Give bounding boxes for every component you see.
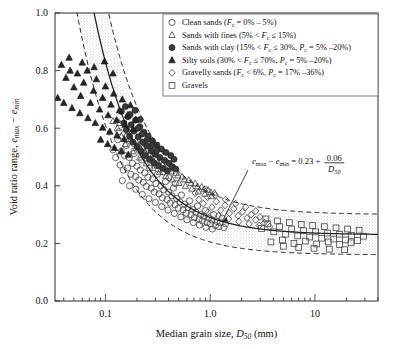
svg-text:0.6: 0.6: [36, 123, 49, 134]
svg-text:Silty soils (30% < Fc ≤ 70%, P: Silty soils (30% < Fc ≤ 70%, Pc = 5% –20…: [182, 56, 332, 66]
void-ratio-range-scatter-chart: 0.00.20.40.60.81.00.11.010Median grain s…: [0, 0, 397, 349]
svg-text:0.2: 0.2: [36, 238, 49, 249]
legend-item-1: Sands with fines (5% < Fc ≤ 15%): [169, 31, 296, 41]
svg-text:Sands with fines (5% < Fc ≤ 15: Sands with fines (5% < Fc ≤ 15%): [182, 31, 296, 41]
equation-text: emax − emin = 0.23 +: [252, 156, 320, 167]
svg-text:Gravels: Gravels: [182, 81, 208, 90]
svg-text:1.0: 1.0: [36, 7, 49, 18]
x-axis-title: Median grain size, D50 (mm): [156, 328, 278, 341]
svg-text:0.8: 0.8: [36, 65, 49, 76]
svg-text:1.0: 1.0: [204, 308, 217, 319]
svg-text:D50: D50: [327, 164, 341, 175]
figure-container: 0.00.20.40.60.81.00.11.010Median grain s…: [0, 0, 397, 349]
legend-item-4: Gravelly sands (Fc < 6%, Pc = 17% –36%): [169, 68, 324, 78]
legend-item-0: Clean sands (Fc = 0% – 5%): [169, 18, 277, 28]
legend-item-5: Gravels: [169, 81, 208, 90]
svg-text:10: 10: [310, 308, 320, 319]
svg-text:Gravelly sands (Fc < 6%, Pc =: Gravelly sands (Fc < 6%, Pc = 17% –36%): [182, 68, 324, 78]
svg-text:0.06: 0.06: [327, 153, 343, 163]
chart-legend: Clean sands (Fc = 0% – 5%)Sands with fin…: [163, 14, 378, 96]
svg-text:Clean sands (Fc = 0% – 5%): Clean sands (Fc = 0% – 5%): [182, 18, 277, 28]
svg-text:0.1: 0.1: [99, 308, 112, 319]
svg-text:Sands with clay (15% < Fc ≤ 30: Sands with clay (15% < Fc ≤ 30%, Pc = 5%…: [182, 43, 351, 53]
legend-item-2: Sands with clay (15% < Fc ≤ 30%, Pc = 5%…: [169, 43, 351, 53]
y-axis-title: Void ratio range, emax − emin: [8, 98, 21, 215]
svg-text:0.0: 0.0: [36, 295, 49, 306]
svg-text:0.4: 0.4: [36, 180, 49, 191]
